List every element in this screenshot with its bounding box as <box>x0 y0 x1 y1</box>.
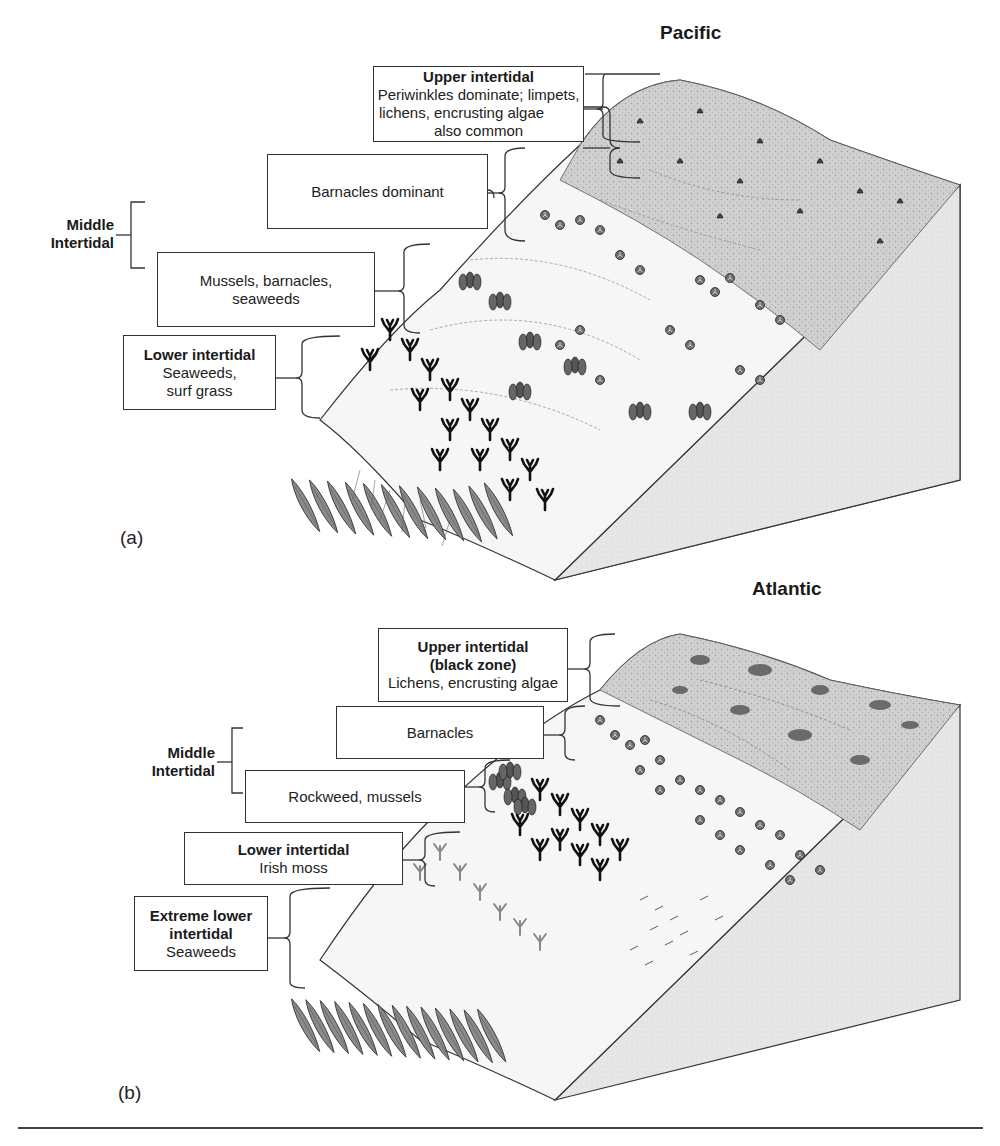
zone-title: (black zone) <box>430 656 517 674</box>
zone-desc-line: seaweeds <box>232 290 300 308</box>
atlantic-lower-intertidal-box: Lower intertidal Irish moss <box>184 832 403 885</box>
atlantic-upper-intertidal-box: Upper intertidal (black zone) Lichens, e… <box>378 628 568 702</box>
pacific-upper-intertidal-box: Upper intertidal Periwinkles dominate; l… <box>373 66 584 142</box>
pacific-middle-intertidal-label: Middle Intertidal <box>40 216 114 252</box>
atlantic-barnacles-box: Barnacles <box>336 706 544 759</box>
group-label-line: Intertidal <box>40 234 114 252</box>
zone-desc-line: Lichens, encrusting algae <box>388 674 558 692</box>
zone-title: Lower intertidal <box>144 346 256 364</box>
panel-a-title: Pacific <box>660 22 721 44</box>
atlantic-extreme-lower-intertidal-box: Extreme lower intertidal Seaweeds <box>134 896 268 971</box>
group-label-line: Middle <box>40 216 114 234</box>
zone-desc-line: Irish moss <box>259 859 327 877</box>
zone-desc-line: lichens, encrusting algae <box>374 104 544 122</box>
illustration-layer <box>0 0 1000 1146</box>
atlantic-rockweed-box: Rockweed, mussels <box>245 770 465 823</box>
pacific-barnacles-box: Barnacles dominant <box>267 154 488 229</box>
pacific-mussels-box: Mussels, barnacles, seaweeds <box>157 252 375 327</box>
panel-a-tag: (a) <box>120 527 143 549</box>
zone-title: Extreme lower <box>150 907 253 925</box>
zone-title: intertidal <box>169 925 232 943</box>
zone-desc-line: Barnacles <box>407 724 474 742</box>
atlantic-middle-intertidal-label: Middle Intertidal <box>140 744 215 780</box>
zone-desc-line: Mussels, barnacles, <box>200 272 333 290</box>
bottom-divider <box>18 1127 983 1129</box>
zone-desc-line: Seaweeds <box>166 943 236 961</box>
panel-b-tag: (b) <box>118 1082 141 1104</box>
zone-title: Upper intertidal <box>418 638 529 656</box>
zone-desc-line: Barnacles dominant <box>311 183 444 201</box>
zone-desc-line: surf grass <box>167 382 233 400</box>
zone-desc-line: Rockweed, mussels <box>288 788 421 806</box>
zone-title: Lower intertidal <box>238 841 350 859</box>
panel-b-title: Atlantic <box>752 578 822 600</box>
group-label-line: Middle <box>140 744 215 762</box>
zone-desc-line: also common <box>434 122 523 140</box>
pacific-lower-intertidal-box: Lower intertidal Seaweeds, surf grass <box>123 335 276 410</box>
group-label-line: Intertidal <box>140 762 215 780</box>
zone-desc-line: Seaweeds, <box>162 364 236 382</box>
zone-title: Upper intertidal <box>423 68 534 86</box>
zone-desc-line: Periwinkles dominate; limpets, <box>378 86 580 104</box>
